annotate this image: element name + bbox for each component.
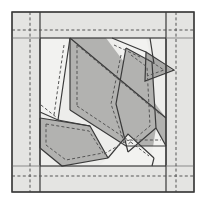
pattern-diagram-root: Quilt Block Paper-Piecing Pattern — [0, 0, 206, 204]
quilt-block-pattern-svg — [0, 0, 206, 204]
